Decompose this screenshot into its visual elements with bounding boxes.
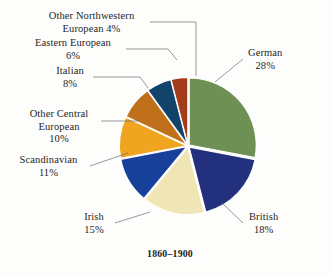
label-other-central-european-value: 10% [20,133,98,146]
label-eastern-european-name: Eastern European [23,37,123,50]
label-german-name: German [248,47,282,60]
label-italian: Italian 8% [50,65,90,90]
label-other-northwestern-european-name: Other Northwestern [35,10,148,23]
leader-line-italian [93,77,148,88]
label-british: British 18% [249,211,278,236]
leader-line-german [215,59,243,82]
label-italian-name: Italian [50,65,90,78]
label-eastern-european: Eastern European 6% [23,37,123,62]
chart-caption: 1860–1900 [135,248,205,259]
label-british-name: British [249,211,278,224]
pie-chart-figure: German 28% British 18% Irish 15% Scandin… [0,0,330,275]
label-irish-value: 15% [76,224,112,237]
pie-slice-group [119,77,256,214]
label-german: German 28% [248,47,282,72]
leader-line-eastern-european [126,49,177,60]
leader-line-irish [115,212,150,223]
label-scandinavian-name: Scandinavian [9,154,88,167]
pie-slice-german [189,78,256,158]
label-scandinavian-value: 11% [9,167,88,180]
label-other-central-european-name-2: European [20,121,98,134]
label-german-value: 28% [248,60,282,73]
label-italian-value: 8% [50,78,90,91]
label-other-central-european: Other Central European 10% [20,108,98,146]
label-british-value: 18% [249,224,278,237]
label-irish-name: Irish [76,211,112,224]
label-eastern-european-value: 6% [23,50,123,63]
leader-line-british [222,203,243,223]
label-irish: Irish 15% [76,211,112,236]
label-other-northwestern-european: Other Northwestern European 4% [35,10,148,35]
label-other-northwestern-european-value: European 4% [35,23,148,36]
label-scandinavian: Scandinavian 11% [9,154,88,179]
label-other-central-european-name-1: Other Central [20,108,98,121]
